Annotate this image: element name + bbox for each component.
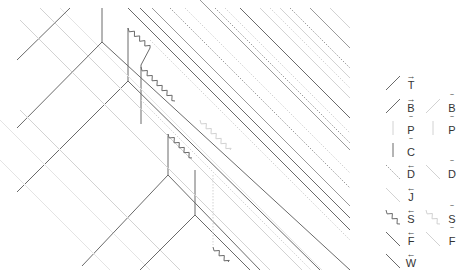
solid-line — [128, 8, 350, 230]
legend-symbol-icon — [386, 254, 400, 268]
dotted-line — [185, 8, 350, 173]
legend-symbol-icon — [386, 188, 400, 202]
legend-symbol-icon — [426, 99, 440, 113]
solid-line — [17, 8, 70, 60]
solid-line — [330, 8, 350, 28]
solid-line — [310, 8, 350, 48]
legend-symbol-icon — [386, 99, 400, 113]
solid-line — [141, 48, 150, 65]
dotted-line — [150, 40, 350, 240]
legend-accent: ← — [405, 161, 417, 169]
legend-accent: ‾ — [446, 95, 458, 103]
legend-accent: ‾ — [446, 228, 458, 236]
legend-accent: → — [405, 95, 417, 103]
line-diagram — [0, 0, 470, 270]
legend-symbol-icon — [426, 165, 440, 179]
legend-label-p-right: ‾P — [446, 124, 458, 136]
zigzag-line — [200, 120, 231, 150]
legend-accent: ← — [405, 228, 417, 236]
zigzag-line — [168, 134, 192, 158]
legend-label-d-left: ←D — [405, 168, 417, 180]
legend-label-b-right: ‾B — [446, 102, 458, 114]
legend-label-f-left: ←F — [405, 235, 417, 247]
zigzag-line — [141, 67, 175, 101]
solid-line — [20, 110, 180, 270]
legend-label-j-left: ←J — [405, 191, 417, 203]
solid-line — [0, 160, 110, 270]
dotted-line — [141, 100, 311, 270]
legend-label-c-left: ‾C — [405, 146, 417, 158]
legend-symbol-icon — [426, 232, 440, 246]
legend-symbol-icon — [386, 232, 400, 246]
dotted-line — [290, 8, 350, 68]
legend-symbol-icon — [386, 76, 400, 90]
solid-line — [140, 8, 350, 218]
legend-label-w-left: ←W — [405, 257, 417, 269]
legend-symbol-icon — [426, 210, 440, 224]
legend-accent: ‾ — [446, 206, 458, 214]
solid-line — [17, 81, 128, 192]
legend-label-s-right: ‾S — [446, 213, 458, 225]
solid-line — [280, 8, 350, 78]
legend-accent: ‾ — [446, 117, 458, 125]
diagram-lines — [0, 0, 350, 270]
legend-label-b-left: →B — [405, 102, 417, 114]
legend-label-f-right: ‾F — [446, 235, 458, 247]
solid-line — [0, 120, 150, 270]
legend-accent: ‾ — [405, 117, 417, 125]
legend-label-d-right: ‾D — [446, 168, 458, 180]
legend-accent: ‾ — [405, 139, 417, 147]
legend-accent: ← — [405, 250, 417, 258]
legend-accent: ← — [405, 206, 417, 214]
solid-line — [82, 175, 168, 266]
legend-accent: ← — [405, 184, 417, 192]
solid-line — [128, 81, 320, 270]
legend-label-p-left: ‾P — [405, 124, 417, 136]
solid-line — [40, 8, 302, 270]
zigzag-line — [213, 247, 229, 262]
legend-label-s-left: ←S — [405, 213, 417, 225]
dotted-line — [170, 8, 350, 188]
legend-accent: ‾ — [446, 161, 458, 169]
legend-label-t-left: →T — [405, 79, 417, 91]
dotted-line — [270, 8, 350, 88]
legend-accent: → — [405, 72, 417, 80]
solid-line — [240, 8, 350, 118]
legend-symbol-icon — [386, 210, 400, 224]
legend-symbol-icon — [386, 165, 400, 179]
zigzag-line — [128, 28, 150, 48]
dotted-line — [225, 8, 350, 133]
solid-line — [260, 8, 350, 98]
